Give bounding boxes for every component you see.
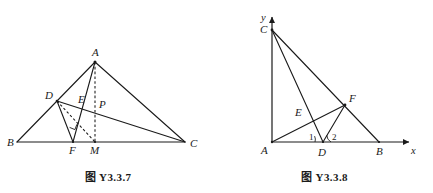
segment-CB — [272, 30, 379, 142]
point-label-A: A — [260, 144, 268, 156]
point-label-E: E — [77, 93, 85, 105]
vertex-dot-C — [271, 29, 274, 32]
figure-y338-diagram: A B C D E F x y 1 2 — [216, 0, 433, 193]
point-label-B: B — [376, 145, 383, 157]
right-angle-mark-at-F — [70, 124, 77, 129]
angle-arc-2 — [327, 135, 331, 142]
angle-label-1: 1 — [309, 132, 314, 142]
fig338-solid-segments — [272, 30, 379, 142]
point-label-A: A — [91, 46, 99, 58]
fig338-axes — [272, 17, 409, 142]
y-axis-label: y — [260, 12, 266, 23]
fig338-axis-labels: x y — [260, 12, 416, 156]
point-label-M: M — [89, 144, 100, 156]
figure-sheet: A B C D E P F M — [0, 0, 433, 193]
point-label-B: B — [7, 136, 14, 148]
segment-CD — [272, 30, 323, 142]
vertex-dot-F — [72, 141, 74, 143]
segment-side-AC — [95, 62, 185, 142]
segment-DC — [57, 101, 185, 142]
figure-caption-y338: 图 Y3.3.8 — [216, 168, 433, 184]
angle-label-2: 2 — [332, 132, 337, 142]
figure-caption-y337: 图 Y3.3.7 — [0, 168, 216, 184]
segment-DF — [57, 101, 73, 142]
vertex-dot-D — [56, 100, 59, 103]
vertex-dot-F — [344, 104, 347, 107]
point-label-D: D — [44, 89, 53, 101]
vertex-dot-A — [94, 61, 97, 64]
point-label-C: C — [260, 23, 268, 35]
vertex-dot-M — [94, 141, 96, 143]
x-axis-label: x — [410, 145, 416, 156]
figure-y337-diagram: A B C D E P F M — [0, 0, 216, 193]
vertex-dot-B — [378, 141, 380, 143]
point-label-P: P — [98, 98, 106, 110]
point-label-F: F — [348, 92, 356, 104]
point-label-E: E — [294, 106, 302, 118]
fig337-point-labels: A B C D E P F M — [7, 46, 198, 156]
point-label-C: C — [190, 137, 198, 149]
vertex-dot-A — [271, 141, 273, 143]
angle-arc-1 — [315, 136, 316, 142]
point-label-D: D — [317, 146, 326, 158]
vertex-dot-D — [322, 141, 324, 143]
point-label-F: F — [68, 144, 76, 156]
